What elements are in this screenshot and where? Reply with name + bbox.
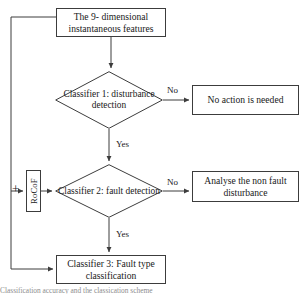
edge-label-no-2: No	[166, 178, 179, 187]
node-classifier1: Classifier 1: disturbance detection	[55, 71, 163, 129]
connector-layer	[0, 0, 304, 294]
node-classifier3-line2: classification	[65, 270, 157, 281]
node-analyse-line1: Analyse the non fault	[202, 175, 288, 186]
summing-junction-plus: +	[12, 182, 19, 195]
node-rocof-label: RoCoF	[29, 178, 39, 204]
figure-caption: Classification accuracy and the classica…	[0, 287, 304, 294]
node-rocof: RoCoF	[26, 170, 41, 212]
node-classifier1-line2: disturbance	[111, 89, 154, 99]
node-classifier2-line1: Classifier 2:	[58, 186, 104, 196]
node-classifier3: Classifier 3: Fault type classification	[56, 255, 166, 284]
node-no-action: No action is needed	[192, 85, 299, 115]
node-features-line1: The 9- dimensional	[67, 11, 156, 22]
node-classifier2: Classifier 2: fault detection	[55, 164, 163, 218]
node-analyse: Analyse the non fault disturbance	[192, 171, 299, 202]
edge-feedback-rail	[11, 17, 56, 269]
flowchart-canvas: The 9- dimensional instantaneous feature…	[0, 0, 304, 294]
node-no-action-label: No action is needed	[206, 94, 286, 105]
edge-label-yes-1: Yes	[115, 140, 130, 149]
node-analyse-line2: disturbance	[202, 187, 288, 198]
edge-label-no-1: No	[166, 86, 179, 95]
edge-label-yes-2: Yes	[115, 230, 130, 239]
node-classifier3-line1: Classifier 3: Fault type	[65, 258, 157, 269]
node-classifier1-line1: Classifier 1:	[63, 89, 109, 99]
node-features: The 9- dimensional instantaneous feature…	[56, 8, 166, 37]
node-classifier2-line2: fault detection	[106, 186, 160, 196]
node-classifier1-line3: detection	[92, 100, 126, 110]
node-features-line2: instantaneous features	[67, 23, 156, 34]
